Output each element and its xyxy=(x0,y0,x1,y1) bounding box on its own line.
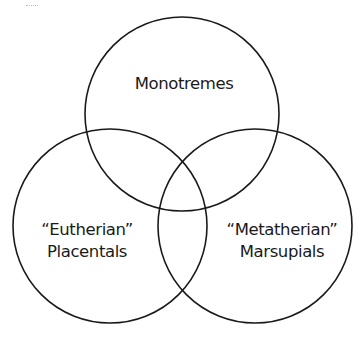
venn-diagram xyxy=(0,0,362,339)
label-marsupials-group: “Metatherian” Marsupials xyxy=(218,219,346,263)
marsupials-text: Marsupials xyxy=(218,241,346,263)
label-monotremes: Monotremes xyxy=(124,73,244,95)
label-placentals-group: “Eutherian” Placentals xyxy=(32,219,142,263)
placentals-text: Placentals xyxy=(32,241,142,263)
monotremes-text: Monotremes xyxy=(135,74,234,93)
venn-diagram-canvas: Monotremes “Eutherian” Placentals “Metat… xyxy=(0,0,362,339)
eutherian-text: “Eutherian” xyxy=(32,219,142,241)
metatherian-text: “Metatherian” xyxy=(218,219,346,241)
circle-monotremes xyxy=(85,17,279,211)
